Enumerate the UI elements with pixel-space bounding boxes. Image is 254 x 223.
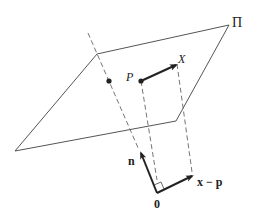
plane-pi — [15, 25, 229, 151]
dashed-line-from-p — [141, 81, 157, 180]
label-point-p: P — [126, 71, 133, 83]
label-origin: 0 — [154, 198, 160, 210]
vector-p-to-x — [141, 65, 176, 81]
intersection-point — [106, 78, 111, 83]
dashed-line-from-x — [177, 64, 192, 172]
label-normal-n: n — [128, 155, 135, 167]
normal-vector-n — [141, 153, 157, 193]
plane-diagram — [0, 0, 254, 223]
label-point-x: X — [178, 53, 185, 65]
label-x-minus-p: x − p — [197, 176, 223, 188]
label-plane-pi: Π — [232, 16, 242, 30]
